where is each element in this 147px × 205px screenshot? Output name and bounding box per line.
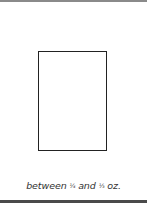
top-divider bbox=[0, 0, 147, 2]
size-outline-rectangle bbox=[38, 51, 107, 151]
weight-caption: between ¼ and ⅓ oz. bbox=[0, 180, 147, 191]
bottom-divider bbox=[0, 200, 147, 203]
caption-suffix: oz. bbox=[104, 180, 120, 191]
caption-middle: and bbox=[75, 180, 98, 191]
caption-prefix: between bbox=[26, 180, 69, 191]
